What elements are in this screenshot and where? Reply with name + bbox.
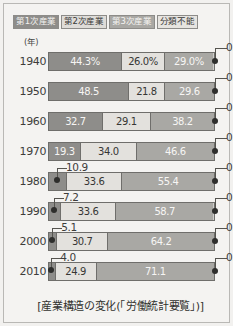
bar-segment-p2: 26.0% xyxy=(122,53,165,70)
bar-segment-value: 46.6 xyxy=(165,147,186,157)
legend-item-4: 分類不能 xyxy=(157,15,198,29)
callout-dot-marker xyxy=(48,267,54,273)
stacked-bar: 44.3%26.0%29.0% xyxy=(48,52,215,71)
bar-segment-value: 58.7 xyxy=(154,207,175,217)
callout-dot-marker xyxy=(51,207,57,213)
bar-segment-value: 29.0% xyxy=(174,57,204,67)
callout-value: 0.0 xyxy=(226,251,233,263)
legend-item-1: 第1次産業 xyxy=(13,15,59,29)
callout-dot-marker xyxy=(212,268,218,274)
callout-value: 4.0 xyxy=(60,251,76,263)
stacked-bar: 19.334.046.6 xyxy=(48,142,215,161)
callout-dot-marker xyxy=(49,237,55,243)
legend-item-label: 分類不能 xyxy=(160,17,195,26)
callout-dot-marker xyxy=(212,58,218,64)
chart-frame: 第1次産業第2次産業第3次産業分類不能 (年) 194044.3%26.0%29… xyxy=(3,3,230,323)
bar-segment-value: 64.2 xyxy=(151,237,172,247)
bar-segment-p3: 29.6 xyxy=(165,83,214,100)
callout-value: 7.2 xyxy=(63,191,79,203)
callout-dot-marker xyxy=(212,238,218,244)
chart-row: 197019.334.046.60.1 xyxy=(4,137,233,167)
chart-row: 196032.729.138.20.0 xyxy=(4,107,233,137)
callout-value: 0.1 xyxy=(226,161,233,173)
callout-dot-marker xyxy=(212,118,218,124)
callout-value: 0.5 xyxy=(226,191,233,203)
bar-segment-value: 29.1 xyxy=(116,117,137,127)
bar-segment-p2: 34.0 xyxy=(81,143,137,160)
bar-segment-p3: 71.1 xyxy=(97,263,214,280)
stacked-bar: 32.729.138.2 xyxy=(48,112,215,131)
row-year-label: 1940 xyxy=(12,55,46,68)
callout-dot-marker xyxy=(212,88,218,94)
bar-segment-p3: 46.6 xyxy=(137,143,214,160)
bar-segment-value: 26.0% xyxy=(128,57,158,67)
bar-segment-p3: 29.0% xyxy=(165,53,213,70)
callout-dot-marker xyxy=(212,148,218,154)
chart-plot-area: (年) 194044.3%26.0%29.0%0.7195048.521.829… xyxy=(4,34,233,286)
legend-item-label: 第3次産業 xyxy=(112,17,152,26)
bar-segment-value: 21.8 xyxy=(136,87,157,97)
callout-value: 0.1 xyxy=(226,131,233,143)
callout-primary-industry: 4.0 xyxy=(37,256,87,286)
bar-segment-value: 71.1 xyxy=(145,267,166,277)
callout-value: 0.0 xyxy=(226,221,233,233)
bar-segment-p1: 48.5 xyxy=(49,83,129,100)
bar-segment-p3: 64.2 xyxy=(108,233,214,250)
row-year-label: 1980 xyxy=(12,175,46,188)
chart-row: 199033.658.70.57.2 xyxy=(4,197,233,227)
bar-segment-value: 29.6 xyxy=(179,87,200,97)
chart-row: 200030.764.20.05.1 xyxy=(4,227,233,257)
bar-segment-p1: 44.3% xyxy=(49,53,122,70)
chart-legend: 第1次産業第2次産業第3次産業分類不能 xyxy=(13,15,198,29)
row-year-label: 1950 xyxy=(12,85,46,98)
bar-segment-value: 19.3 xyxy=(54,147,75,157)
legend-item-3: 第3次産業 xyxy=(109,15,155,29)
callout-value: 0.0 xyxy=(226,101,233,113)
chart-row: 194044.3%26.0%29.0%0.7 xyxy=(4,47,233,77)
chart-figure: 第1次産業第2次産業第3次産業分類不能 (年) 194044.3%26.0%29… xyxy=(0,0,233,326)
legend-item-label: 第2次産業 xyxy=(64,17,104,26)
bar-segment-value: 55.4 xyxy=(158,177,179,187)
legend-item-2: 第2次産業 xyxy=(61,15,107,29)
bar-segment-value: 32.7 xyxy=(65,117,86,127)
stacked-bar: 48.521.829.6 xyxy=(48,82,215,101)
chart-row: 195048.521.829.60.1 xyxy=(4,77,233,107)
bar-segment-p1: 19.3 xyxy=(49,143,81,160)
bar-segment-p1: 32.7 xyxy=(49,113,103,130)
callout-unclassified: 0.0 xyxy=(209,256,233,286)
bar-segment-value: 38.2 xyxy=(172,117,193,127)
legend-item-label: 第1次産業 xyxy=(16,17,56,26)
y-axis-unit-label: (年) xyxy=(24,35,38,47)
bar-segment-value: 34.0 xyxy=(98,147,119,157)
callout-value: 10.9 xyxy=(66,161,88,173)
callout-value: 0.1 xyxy=(226,71,233,83)
bar-segment-p2: 21.8 xyxy=(129,83,165,100)
chart-row: 201024.971.10.04.0 xyxy=(4,257,233,287)
row-year-label: 1960 xyxy=(12,115,46,128)
callout-value: 0.7 xyxy=(226,41,233,53)
row-year-label: 1970 xyxy=(12,145,46,158)
bar-segment-p3: 55.4 xyxy=(122,173,213,190)
chart-caption: [産業構造の変化(「労働統計要覧」)] xyxy=(4,297,233,313)
bar-segment-p3: 58.7 xyxy=(116,203,213,220)
bar-segment-p2: 29.1 xyxy=(103,113,151,130)
callout-dot-marker xyxy=(54,177,60,183)
bar-segment-value: 44.3% xyxy=(70,57,100,67)
chart-row: 198033.655.40.110.9 xyxy=(4,167,233,197)
callout-value: 5.1 xyxy=(61,221,77,233)
callout-dot-marker xyxy=(212,208,218,214)
bar-segment-p3: 38.2 xyxy=(151,113,214,130)
callout-dot-marker xyxy=(212,178,218,184)
bar-segment-value: 48.5 xyxy=(78,87,99,97)
